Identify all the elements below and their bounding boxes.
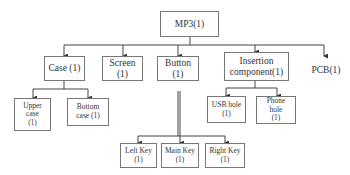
- node-label: (1): [222, 110, 231, 119]
- node-label: (1): [176, 156, 185, 165]
- node-label: (1): [134, 156, 143, 165]
- node-mp3: MP3(1): [160, 11, 219, 37]
- node-label: Insertion: [240, 56, 274, 67]
- node-main-key: Main Key(1): [161, 143, 199, 168]
- node-usb-hole: USB hole(1): [207, 96, 246, 123]
- node-phone-hole: Phonehole(1): [256, 96, 296, 124]
- node-label: PCB(1): [311, 65, 340, 75]
- node-pcb: PCB(1): [308, 60, 344, 80]
- product-structure-tree: MP3(1) Case (1) Screen(1) Button(1) Inse…: [0, 0, 350, 175]
- node-label: Screen: [110, 58, 136, 69]
- node-insertion-component: Insertioncomponent(1): [224, 52, 289, 81]
- node-screen: Screen(1): [102, 56, 143, 81]
- node-label: (1): [221, 156, 230, 165]
- node-left-key: Left Key(1): [120, 143, 157, 168]
- node-case: Case (1): [44, 56, 85, 81]
- node-label: (1): [272, 114, 281, 123]
- node-upper-case: Uppercase(1): [14, 98, 51, 131]
- node-label: (1): [172, 69, 183, 80]
- node-label: component(1): [230, 67, 283, 78]
- node-label: Button: [165, 58, 191, 69]
- node-label: (1): [28, 119, 37, 128]
- node-label: Case (1): [49, 63, 81, 74]
- node-button: Button(1): [157, 56, 199, 81]
- node-label: MP3(1): [175, 19, 205, 30]
- node-bottom-case: Bottomcase (1): [67, 98, 109, 126]
- node-right-key: Right Key(1): [205, 143, 245, 168]
- node-label: (1): [117, 69, 128, 80]
- node-label: case (1): [76, 112, 100, 121]
